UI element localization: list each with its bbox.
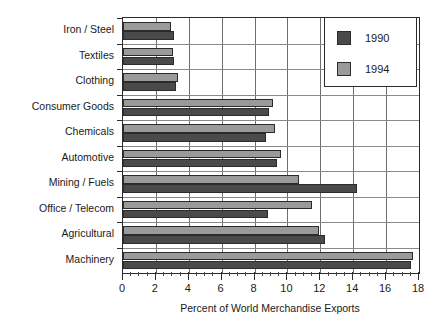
x-axis-title: Percent of World Merchandise Exports	[122, 302, 418, 315]
category-label: Textiles	[0, 50, 114, 61]
bar-1994	[123, 175, 299, 184]
x-tick-minor	[237, 272, 238, 276]
bar-1994	[123, 150, 281, 159]
bar-1994	[123, 201, 312, 210]
x-tick-label: 8	[239, 282, 269, 295]
x-tick-minor	[360, 272, 361, 276]
x-tick-minor	[212, 272, 213, 276]
x-tick-minor	[393, 272, 394, 276]
x-tick-minor	[130, 272, 131, 276]
category-axis-labels: Iron / SteelTextilesClothingConsumer Goo…	[0, 17, 118, 272]
x-tick-major	[385, 272, 386, 280]
x-tick-minor	[171, 272, 172, 276]
x-tick-minor	[336, 272, 337, 276]
x-tick-label: 4	[173, 282, 203, 295]
x-tick-major	[188, 272, 189, 280]
bar-1990	[123, 184, 357, 193]
legend-swatch-1990	[337, 31, 351, 45]
category-tick	[117, 197, 123, 198]
bar-1990	[123, 210, 268, 219]
category-label: Mining / Fuels	[0, 177, 114, 188]
gridline-horizontal	[123, 146, 419, 147]
bar-1994	[123, 124, 275, 133]
bar-1990	[123, 159, 277, 168]
x-tick-major	[155, 272, 156, 280]
category-label: Automotive	[0, 152, 114, 163]
gridline-horizontal	[123, 197, 419, 198]
x-tick-minor	[410, 272, 411, 276]
x-tick-major	[319, 272, 320, 280]
category-tick	[117, 95, 123, 96]
x-tick-label: 14	[337, 282, 367, 295]
bar-1994	[123, 73, 178, 82]
bar-1994	[123, 252, 413, 261]
x-tick-major	[418, 272, 419, 280]
x-tick-label: 0	[107, 282, 137, 295]
gridline-horizontal	[123, 120, 419, 121]
category-tick	[117, 222, 123, 223]
gridline-horizontal	[123, 171, 419, 172]
x-tick-minor	[196, 272, 197, 276]
x-tick-minor	[278, 272, 279, 276]
x-tick-label: 10	[271, 282, 301, 295]
x-tick-minor	[377, 272, 378, 276]
bar-1990	[123, 82, 176, 91]
x-tick-major	[352, 272, 353, 280]
gridline-horizontal	[123, 248, 419, 249]
legend-label: 1990	[365, 30, 389, 46]
x-tick-minor	[138, 272, 139, 276]
bar-chart: Iron / SteelTextilesClothingConsumer Goo…	[0, 0, 440, 332]
category-tick	[117, 171, 123, 172]
x-axis-ticks	[122, 272, 420, 281]
x-tick-minor	[229, 272, 230, 276]
x-tick-label: 2	[140, 282, 170, 295]
x-tick-minor	[344, 272, 345, 276]
category-tick	[117, 18, 123, 19]
x-tick-minor	[402, 272, 403, 276]
bar-1994	[123, 226, 319, 235]
bar-1994	[123, 48, 173, 57]
x-tick-minor	[270, 272, 271, 276]
bar-1990	[123, 57, 174, 66]
x-tick-minor	[295, 272, 296, 276]
bar-1994	[123, 99, 273, 108]
x-tick-minor	[245, 272, 246, 276]
bar-1990	[123, 108, 269, 117]
category-tick	[117, 69, 123, 70]
x-tick-major	[122, 272, 123, 280]
x-tick-label: 12	[304, 282, 334, 295]
x-tick-major	[254, 272, 255, 280]
x-tick-minor	[311, 272, 312, 276]
category-label: Clothing	[0, 75, 114, 86]
bar-1990	[123, 261, 411, 270]
bar-1990	[123, 31, 174, 40]
x-axis-tick-labels: 024681012141618	[0, 282, 440, 296]
category-label: Iron / Steel	[0, 24, 114, 35]
category-tick	[117, 44, 123, 45]
category-tick	[117, 146, 123, 147]
bar-1990	[123, 235, 325, 244]
category-label: Chemicals	[0, 126, 114, 137]
x-tick-minor	[147, 272, 148, 276]
category-tick	[117, 120, 123, 121]
bar-1990	[123, 133, 266, 142]
x-tick-major	[286, 272, 287, 280]
category-tick	[117, 248, 123, 249]
x-tick-minor	[328, 272, 329, 276]
category-label: Agricultural	[0, 228, 114, 239]
legend-label: 1994	[365, 61, 389, 77]
gridline-horizontal	[123, 95, 419, 96]
x-tick-minor	[369, 272, 370, 276]
x-tick-minor	[163, 272, 164, 276]
category-label: Office / Telecom	[0, 203, 114, 214]
x-tick-minor	[204, 272, 205, 276]
gridline-horizontal	[123, 222, 419, 223]
legend-swatch-1994	[337, 62, 351, 76]
category-label: Consumer Goods	[0, 101, 114, 112]
chart-legend: 19901994	[324, 17, 417, 87]
category-label: Machinery	[0, 254, 114, 265]
x-tick-minor	[303, 272, 304, 276]
x-tick-label: 16	[370, 282, 400, 295]
x-tick-major	[221, 272, 222, 280]
bar-1994	[123, 22, 171, 31]
